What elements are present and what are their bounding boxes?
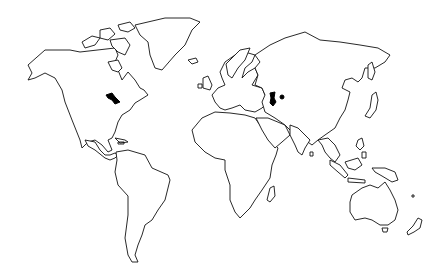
new-guinea [372, 168, 398, 182]
japan [365, 92, 378, 118]
pacific-island [412, 195, 414, 197]
tasmania [382, 228, 388, 232]
world-map [0, 0, 444, 276]
british-isles [198, 76, 212, 90]
sri-lanka [310, 152, 313, 156]
australia [350, 182, 398, 225]
south-america [115, 150, 170, 262]
madagascar [267, 186, 275, 202]
new-zealand [407, 218, 422, 235]
caribbean-islands [115, 138, 128, 144]
iceland [188, 58, 198, 64]
philippines [356, 138, 366, 158]
north-america [28, 48, 148, 152]
southeast-asia [318, 138, 340, 162]
aral-sea [280, 95, 284, 99]
